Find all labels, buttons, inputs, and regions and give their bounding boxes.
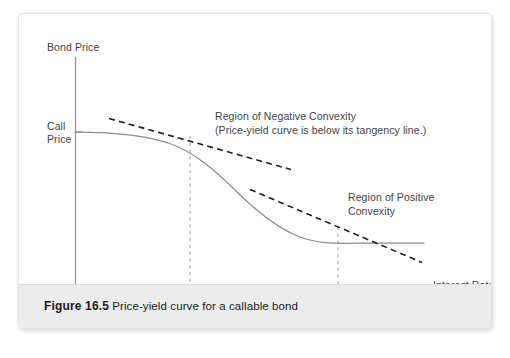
annotation-negative-convexity-line-1: Region of Negative Convexity xyxy=(215,110,426,124)
figure-number: Figure 16.5 xyxy=(44,299,109,313)
figure-caption-bar: Figure 16.5 Price-yield curve for a call… xyxy=(19,284,492,328)
annotation-positive-convexity: Region of Positive Convexity xyxy=(348,191,434,218)
annotation-positive-convexity-line-1: Region of Positive xyxy=(348,191,434,205)
annotation-negative-convexity: Region of Negative Convexity (Price-yiel… xyxy=(215,110,426,137)
annotation-positive-convexity-line-2: Convexity xyxy=(348,205,434,219)
figure-container: Bond Price Call Price 0 5% 10% Interest … xyxy=(18,13,492,329)
y-axis-title: Bond Price xyxy=(47,41,99,54)
price-yield-chart xyxy=(19,14,492,286)
call-price-line-2: Price xyxy=(47,133,71,146)
call-price-line-1: Call xyxy=(47,120,71,133)
chart-plot-area: Bond Price Call Price 0 5% 10% Interest … xyxy=(19,14,492,286)
price-yield-curve xyxy=(75,132,424,243)
call-price-label: Call Price xyxy=(47,120,71,146)
figure-caption: Figure 16.5 Price-yield curve for a call… xyxy=(44,299,298,313)
figure-title: Price-yield curve for a callable bond xyxy=(112,300,298,312)
annotation-negative-convexity-line-2: (Price-yield curve is below its tangency… xyxy=(215,124,426,138)
